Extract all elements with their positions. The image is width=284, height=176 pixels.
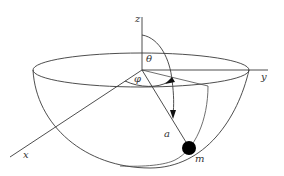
x-axis-label: x: [23, 149, 29, 160]
theta-arc: [142, 35, 174, 114]
theta-label: θ: [146, 53, 152, 64]
x-axis: [10, 70, 142, 157]
hemisphere-diagram: z y x θ φ a m: [0, 0, 284, 176]
projection-line: [142, 70, 208, 86]
bowl-outline: [33, 70, 249, 168]
phi-arrow-icon: [165, 77, 175, 84]
phi-label: φ: [134, 73, 141, 84]
phi-arc: [125, 81, 168, 86]
z-axis-label: z: [134, 13, 141, 24]
mass-label: m: [195, 153, 204, 164]
mass-ball: [182, 141, 196, 155]
radius-label: a: [164, 128, 170, 139]
y-axis-label: y: [260, 71, 267, 82]
